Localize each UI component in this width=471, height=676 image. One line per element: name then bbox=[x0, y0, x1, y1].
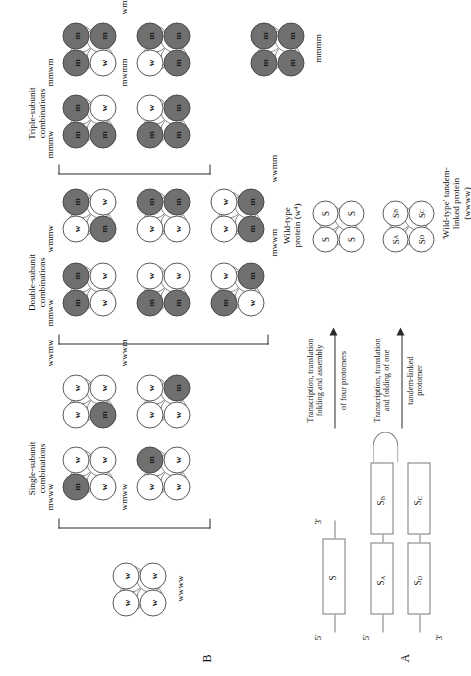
subunit-2: m bbox=[62, 22, 89, 49]
genotype-label-mwmm: mwmm bbox=[118, 58, 128, 86]
wildtype-protein-caption: Wild-type protein (w4) bbox=[281, 178, 302, 272]
subunit-3: m bbox=[163, 289, 190, 316]
subunit-1: w bbox=[62, 401, 89, 428]
subunit-s-3: S bbox=[338, 226, 364, 252]
subunit-2: m bbox=[62, 262, 89, 289]
subunit-4: m bbox=[163, 188, 190, 215]
subunit-2: m bbox=[136, 446, 163, 473]
tandem-flank-left-bottom bbox=[419, 614, 420, 632]
subunit-1: w bbox=[136, 473, 163, 500]
subunit-3: m bbox=[163, 49, 190, 76]
subunit-1: m bbox=[62, 49, 89, 76]
subunit-3: w bbox=[139, 589, 166, 616]
subunit-1: w bbox=[136, 215, 163, 242]
subunit-4: w bbox=[89, 262, 116, 289]
subunit-4: m bbox=[163, 94, 190, 121]
subunit-1: w bbox=[210, 215, 237, 242]
tetramer-wwmm: w w m m bbox=[210, 186, 266, 242]
subunit-3: w bbox=[89, 473, 116, 500]
subunit-3: w bbox=[89, 49, 116, 76]
arrow-head-icon bbox=[329, 327, 337, 335]
tetramer-wmmw: w m m w bbox=[62, 186, 118, 242]
subunit-1: m bbox=[62, 289, 89, 316]
subunit-3: m bbox=[89, 215, 116, 242]
tetramer-wmmm: w m m m bbox=[136, 20, 192, 76]
subunit-2: w bbox=[62, 446, 89, 473]
arrow-bottom-caption: Transcription, translation and folding o… bbox=[372, 324, 391, 436]
gene-tandem-three-prime: 3' bbox=[433, 634, 443, 640]
subunit-2: w bbox=[210, 188, 237, 215]
gene-box-sa-label: SA bbox=[375, 575, 386, 585]
genotype-label-mmww: mmww bbox=[44, 298, 54, 326]
subunit-2: m bbox=[62, 94, 89, 121]
tetramer-mmmm: m m m m bbox=[250, 20, 306, 76]
group-heading-triple: Triple-subunit combinations bbox=[26, 52, 47, 174]
subunit-4: m bbox=[237, 188, 264, 215]
arrow-top-caption: Transcription, translation folding and a… bbox=[305, 324, 324, 436]
subunit-1: m bbox=[136, 121, 163, 148]
subunit-3: w bbox=[163, 401, 190, 428]
subunit-3: w bbox=[163, 473, 190, 500]
tetramer-wwmw: w w m w bbox=[62, 372, 118, 428]
tetramer-wwwm: w w w m bbox=[136, 372, 192, 428]
subunit-3: m bbox=[237, 215, 264, 242]
tetramer-wwww: w w w w bbox=[112, 560, 168, 616]
subunit-1: w bbox=[136, 401, 163, 428]
panel-letter-b: B bbox=[200, 654, 213, 662]
subunit-3: m bbox=[277, 49, 304, 76]
subunit-3: m bbox=[89, 121, 116, 148]
group-heading-single: Single-subunit combinations bbox=[26, 408, 47, 528]
subunit-2: m bbox=[62, 188, 89, 215]
subunit-s-2: S bbox=[312, 200, 338, 226]
arrow-head-tandem-icon bbox=[396, 327, 404, 335]
subunit-4: w bbox=[89, 446, 116, 473]
gene-box-sc-label: SC bbox=[412, 496, 423, 505]
arrow-bottom-caption-below: tandem-linked protomer bbox=[405, 324, 424, 436]
tetramer-mmwm: m m w m bbox=[62, 20, 118, 76]
subunit-1: m bbox=[62, 121, 89, 148]
genotype-label-wwww: wwww bbox=[174, 548, 184, 628]
gene-single-three-prime: 3' bbox=[312, 518, 322, 524]
gene-box-label: S bbox=[327, 575, 337, 580]
subunit-4: w bbox=[89, 94, 116, 121]
subunit-sd: SD bbox=[408, 226, 434, 252]
genotype-label-wmmm: wmmm bbox=[118, 0, 128, 14]
arrow-shaft-tandem bbox=[401, 334, 402, 428]
tandem-flank-left bbox=[382, 614, 383, 632]
subunit-2: w bbox=[136, 374, 163, 401]
subunit-4: m bbox=[163, 374, 190, 401]
gene-tandem-five-prime: 5' bbox=[360, 634, 370, 640]
subunit-4: w bbox=[89, 374, 116, 401]
subunit-4: w bbox=[89, 188, 116, 215]
subunit-4: m bbox=[163, 22, 190, 49]
subunit-4: m bbox=[89, 22, 116, 49]
subunit-1: m bbox=[62, 473, 89, 500]
group-bracket-double bbox=[58, 334, 268, 344]
tetramer-mwmw: m w m w bbox=[136, 260, 192, 316]
subunit-2: m bbox=[136, 22, 163, 49]
group-bracket-triple bbox=[58, 164, 210, 174]
genotype-label-mwwm: mwwm bbox=[268, 228, 278, 256]
group-bracket-single bbox=[58, 518, 210, 528]
subunit-1: m bbox=[250, 49, 277, 76]
subunit-3: m bbox=[89, 401, 116, 428]
subunit-1: w bbox=[62, 215, 89, 242]
subunit-1: m bbox=[210, 289, 237, 316]
subunit-s-4: S bbox=[338, 200, 364, 226]
subunit-2: w bbox=[62, 374, 89, 401]
arrow-shaft bbox=[334, 334, 335, 428]
genotype-label-wmmw: wmmw bbox=[44, 224, 54, 252]
genotype-label-mmmm: mmmm bbox=[312, 8, 322, 88]
tetramer-wmwm: w m w m bbox=[136, 186, 192, 242]
subunit-4: w bbox=[163, 262, 190, 289]
subunit-2: m bbox=[250, 22, 277, 49]
panel-letter-a: A bbox=[398, 653, 411, 662]
subunit-4: w bbox=[163, 446, 190, 473]
subunit-1: w bbox=[136, 49, 163, 76]
gene-box-sb-label: SB bbox=[375, 496, 386, 505]
subunit-2: w bbox=[136, 262, 163, 289]
subunit-sc: SC bbox=[408, 200, 434, 226]
genotype-label-mwww: mwww bbox=[44, 483, 54, 510]
subunit-3: w bbox=[163, 215, 190, 242]
